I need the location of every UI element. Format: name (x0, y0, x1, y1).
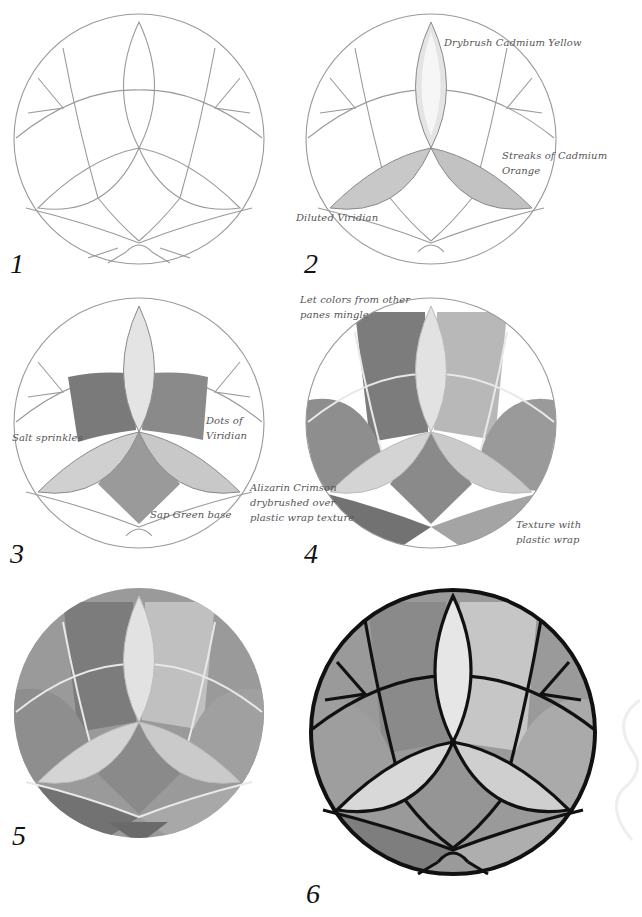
step-number-5: 5 (12, 822, 26, 850)
step-number-3: 3 (10, 540, 24, 568)
annotation-dots-viridian: Dots of Viridian (206, 413, 247, 443)
decorative-swirl-watermark (602, 690, 642, 850)
annotation-diluted-viridian: Diluted Viridian (296, 210, 378, 225)
step-5-panel (8, 582, 270, 844)
step-number-2: 2 (304, 250, 318, 278)
annotation-salt-sprinkles: Salt sprinkles (12, 430, 83, 445)
roundel-final (303, 582, 603, 882)
step-number-4: 4 (304, 540, 318, 568)
step-1-panel (8, 8, 270, 270)
annotation-plastic-wrap: Texture with plastic wrap (516, 517, 581, 547)
roundel-step5 (8, 582, 270, 844)
annotation-drybrush-yellow: Drybrush Cadmium Yellow (444, 35, 582, 50)
annotation-cadmium-orange: Streaks of Cadmium Orange (502, 148, 642, 178)
step-number-6: 6 (306, 880, 320, 908)
annotation-sap-green: Sap Green base (150, 507, 231, 522)
annotation-colors-mingle: Let colors from other panes mingle (300, 292, 410, 322)
step-6-panel (303, 582, 603, 882)
roundel-sketch (8, 8, 270, 270)
step-number-1: 1 (10, 250, 24, 278)
annotation-alizarin-crimson: Alizarin Crimson drybrushed over plastic… (250, 480, 354, 525)
